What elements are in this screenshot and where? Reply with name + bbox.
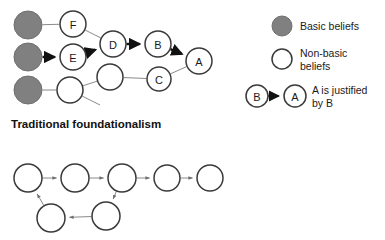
node-basic1 <box>14 11 42 39</box>
node-E: E <box>60 44 86 70</box>
edge-C-to-A <box>170 67 186 74</box>
node-label: C <box>155 74 163 86</box>
node-c2 <box>61 164 89 192</box>
legend-label: Non-basic <box>300 47 347 59</box>
node-c6 <box>92 202 120 230</box>
node-label: F <box>70 19 77 31</box>
node-label: D <box>109 39 117 51</box>
node-c7 <box>37 204 65 232</box>
node-c1 <box>14 164 42 192</box>
nonbasic-belief-swatch-icon <box>272 49 292 69</box>
edge-c6-to-c7 <box>69 217 91 218</box>
legend-label: Basic beliefs <box>300 20 359 32</box>
legend-label: A is justified <box>312 84 368 96</box>
legend-node-label: B <box>253 91 260 103</box>
bottom-diagram-nodes <box>14 164 223 232</box>
node-D: D <box>100 31 126 57</box>
node-C: C <box>147 67 171 91</box>
node-B: B <box>145 31 171 57</box>
legend-label: by B <box>312 97 333 109</box>
node-label: A <box>195 56 203 68</box>
node-c3 <box>108 164 136 192</box>
edge-c7-to-c1 <box>37 194 44 205</box>
edge-E-to-D <box>86 50 96 53</box>
legend: Basic beliefsNon-basicbeliefsBAA is just… <box>246 16 368 109</box>
edge-F-to-D <box>85 30 101 38</box>
legend-item-nonbasic: Non-basicbeliefs <box>272 47 347 72</box>
node-N2 <box>97 64 123 90</box>
node-N1 <box>57 77 83 103</box>
edge-N1-to-N2 <box>83 81 97 86</box>
legend-item-justification: BAA is justifiedby B <box>246 84 368 109</box>
node-A: A <box>186 48 212 74</box>
node-F: F <box>60 11 86 37</box>
node-label: E <box>69 52 76 64</box>
edge-N2-to-C <box>123 78 146 79</box>
basic-belief-swatch-icon <box>272 16 292 36</box>
node-c5 <box>197 165 223 191</box>
page-title: Traditional foundationalism <box>11 118 161 130</box>
legend-label: beliefs <box>300 60 330 72</box>
node-c4 <box>154 165 180 191</box>
legend-node-label: A <box>291 91 299 103</box>
edge-c3-to-c6 <box>113 191 116 199</box>
epistemology-figure: FEDBCA Traditional foundationalism Basic… <box>0 0 385 240</box>
legend-item-basic: Basic beliefs <box>272 16 359 36</box>
edge-stub <box>80 95 100 105</box>
node-basic2 <box>14 43 42 71</box>
node-label: B <box>154 39 161 51</box>
node-basic3 <box>14 76 42 104</box>
edge-B-to-A <box>170 49 181 54</box>
